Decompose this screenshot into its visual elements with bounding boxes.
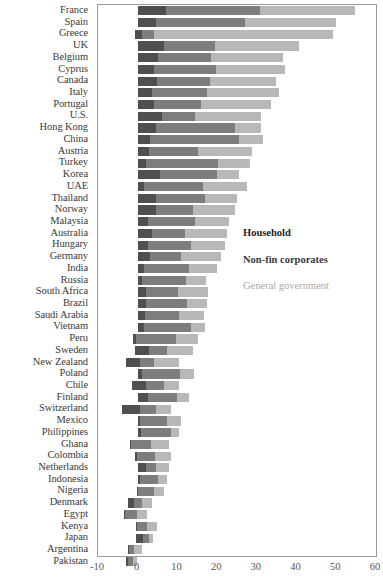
x-axis: -100102030405060 bbox=[97, 557, 377, 587]
category-label: Kenya bbox=[0, 520, 92, 532]
bar-segment-gov bbox=[185, 229, 227, 238]
category-label: Belgium bbox=[0, 51, 92, 63]
bar-row bbox=[98, 52, 376, 64]
bar-row bbox=[98, 193, 376, 205]
bar-segment-corp bbox=[148, 217, 196, 226]
bar-segment-corp bbox=[136, 334, 176, 343]
bar-segment-gov bbox=[134, 545, 142, 554]
x-axis-tick: 0 bbox=[134, 561, 139, 572]
category-label: Mexico bbox=[0, 414, 92, 426]
category-label: Turkey bbox=[0, 156, 92, 168]
stacked-bar bbox=[138, 217, 229, 226]
bar-row bbox=[98, 521, 376, 533]
bar-segment-gov bbox=[158, 475, 168, 484]
bar-segment-house bbox=[138, 463, 146, 472]
category-label: Canada bbox=[0, 74, 92, 86]
bar-segment-gov bbox=[176, 334, 198, 343]
bar-segment-corp bbox=[137, 452, 155, 461]
x-axis-tick: 20 bbox=[211, 561, 222, 572]
category-label: France bbox=[0, 4, 92, 16]
stacked-bar bbox=[138, 65, 286, 74]
bar-segment-corp bbox=[146, 287, 178, 296]
stacked-bar bbox=[124, 510, 147, 519]
bar-segment-corp bbox=[140, 416, 168, 425]
bar-segment-house bbox=[138, 217, 148, 226]
bar-segment-corp bbox=[140, 358, 154, 367]
bar-row bbox=[98, 216, 376, 228]
bar-segment-gov bbox=[245, 18, 336, 27]
stacked-bar bbox=[130, 440, 169, 449]
bar-segment-house bbox=[138, 287, 147, 296]
bar-row bbox=[98, 28, 376, 40]
bar-segment-gov bbox=[154, 30, 333, 39]
stacked-bar bbox=[138, 276, 206, 285]
bar-segment-house bbox=[122, 405, 140, 414]
category-label: Thailand bbox=[0, 192, 92, 204]
category-label: Finland bbox=[0, 391, 92, 403]
stacked-bar bbox=[138, 88, 279, 97]
bar-segment-gov bbox=[149, 534, 153, 543]
stacked-bar bbox=[138, 18, 337, 27]
bar-row bbox=[98, 532, 376, 544]
bar-segment-house bbox=[138, 53, 158, 62]
bar-row bbox=[98, 368, 376, 380]
bar-segment-corp bbox=[146, 299, 188, 308]
bar-row bbox=[98, 204, 376, 216]
bar-segment-corp bbox=[154, 65, 216, 74]
bar-row bbox=[98, 474, 376, 486]
bar-segment-corp bbox=[140, 405, 156, 414]
bar-row bbox=[98, 5, 376, 17]
bar-segment-gov bbox=[205, 194, 237, 203]
bar-segment-house bbox=[138, 77, 157, 86]
stacked-bar bbox=[138, 287, 208, 296]
category-label: Egypt bbox=[0, 508, 92, 520]
category-label: Hong Kong bbox=[0, 121, 92, 133]
bar-segment-house bbox=[138, 41, 164, 50]
bar-segment-corp bbox=[146, 381, 164, 390]
bar-segment-corp bbox=[144, 264, 190, 273]
bar-segment-gov bbox=[210, 77, 276, 86]
stacked-bar bbox=[138, 170, 239, 179]
bar-segment-gov bbox=[215, 41, 298, 50]
bar-row bbox=[98, 333, 376, 345]
legend-label-household: Household bbox=[243, 228, 291, 239]
bar-row bbox=[98, 134, 376, 146]
bar-row bbox=[98, 286, 376, 298]
bar-segment-gov bbox=[201, 100, 271, 109]
bar-segment-corp bbox=[138, 487, 154, 496]
bar-segment-gov bbox=[218, 159, 250, 168]
bar-segment-gov bbox=[156, 405, 172, 414]
bar-row bbox=[98, 544, 376, 556]
category-label: Poland bbox=[0, 367, 92, 379]
bar-segment-gov bbox=[167, 416, 181, 425]
stacked-bar bbox=[128, 498, 152, 507]
bar-row bbox=[98, 403, 376, 415]
bar-segment-gov bbox=[154, 358, 180, 367]
bar-segment-corp bbox=[156, 194, 206, 203]
stacked-bar bbox=[138, 147, 252, 156]
category-label: China bbox=[0, 133, 92, 145]
bar-row bbox=[98, 298, 376, 310]
category-label: Nigeria bbox=[0, 484, 92, 496]
category-label: UAE bbox=[0, 180, 92, 192]
bar-segment-corp bbox=[150, 135, 239, 144]
stacked-bar bbox=[136, 522, 157, 531]
bar-row bbox=[98, 239, 376, 251]
bar-segment-gov bbox=[193, 205, 235, 214]
bar-segment-corp bbox=[131, 440, 151, 449]
bar-segment-house bbox=[138, 205, 156, 214]
bar-segment-house bbox=[138, 299, 146, 308]
bar-row bbox=[98, 415, 376, 427]
bar-segment-corp bbox=[164, 41, 216, 50]
category-label: Peru bbox=[0, 332, 92, 344]
stacked-bar bbox=[137, 487, 164, 496]
bar-segment-corp bbox=[146, 159, 217, 168]
bar-row bbox=[98, 485, 376, 497]
legend-item-general-government: General government bbox=[243, 281, 329, 292]
bar-segment-corp bbox=[134, 498, 142, 507]
category-label: Cyprus bbox=[0, 63, 92, 75]
bar-segment-gov bbox=[164, 381, 180, 390]
bar-segment-house bbox=[138, 123, 156, 132]
stacked-bar bbox=[138, 135, 263, 144]
stacked-bar bbox=[138, 252, 221, 261]
